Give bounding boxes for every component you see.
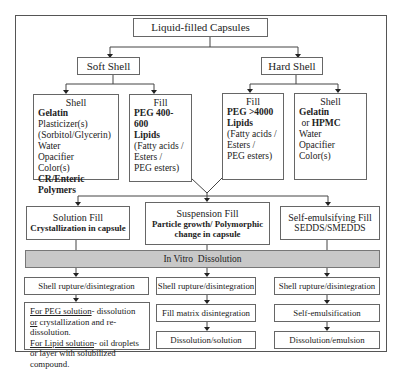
step-label: Fill matrix disintegration bbox=[162, 308, 250, 319]
hard-shell-fill-box: Fill PEG >4000 Lipids (Fatty acids / Est… bbox=[222, 93, 284, 180]
step-label: Shell rupture/disintegration bbox=[158, 281, 255, 292]
hpmc-text: HPMC bbox=[312, 118, 341, 128]
in-vitro-dissolution-bar: In Vitro Dissolution bbox=[25, 250, 380, 268]
peg-solution-label: For PEG solution bbox=[30, 306, 92, 316]
root-label: Liquid-filled Capsules bbox=[151, 22, 250, 33]
dissolution-label-right: Dissolution bbox=[198, 254, 242, 264]
root-box: Liquid-filled Capsules bbox=[133, 18, 268, 37]
suspension-step-dissolution: Dissolution/solution bbox=[156, 331, 256, 349]
self-emulsifying-step-emulsification: Self-emulsification bbox=[274, 304, 380, 322]
fill-item: Lipids bbox=[227, 118, 279, 129]
hard-shell-composition-title: Shell bbox=[299, 96, 362, 107]
step-label: Shell rupture/disintegration bbox=[38, 281, 135, 292]
soft-shell-box: Soft Shell bbox=[77, 57, 140, 75]
step-label: Shell rupture/disintegration bbox=[279, 281, 376, 292]
composition-item: Color(s) bbox=[299, 151, 362, 162]
self-emulsifying-fill-title: Self-emulsifying Fill bbox=[288, 212, 372, 223]
composition-item: Plasticizer(s) bbox=[38, 119, 114, 130]
fill-item: PEG esters) bbox=[227, 151, 279, 162]
composition-item: Opacifier bbox=[299, 140, 362, 151]
composition-item: Gelatin bbox=[38, 108, 114, 119]
self-emulsifying-fill-box: Self-emulsifying Fill SEDDS/SMEDDS bbox=[280, 206, 380, 240]
fill-item: Esters / bbox=[227, 140, 279, 151]
suspension-step-shell-rupture: Shell rupture/disintegration bbox=[156, 277, 256, 295]
solution-fill-title: Solution Fill bbox=[53, 212, 103, 223]
soft-shell-fill-title: Fill bbox=[134, 97, 187, 108]
fill-item: PEG esters) bbox=[134, 163, 187, 174]
hard-shell-fill-title: Fill bbox=[227, 96, 279, 107]
composition-item: Opacifier bbox=[38, 152, 114, 163]
solution-fill-subtitle: Crystallization in capsule bbox=[30, 223, 125, 234]
self-emulsifying-fill-subtitle: SEDDS/SMEDDS bbox=[294, 223, 365, 234]
dissolution-label-left: In Vitro bbox=[163, 254, 193, 264]
composition-item: (Sorbitol/Glycerin) bbox=[38, 130, 114, 141]
peg-solution-text-2: crystallization and re-dissolution. bbox=[30, 317, 116, 338]
suspension-fill-title: Suspension Fill bbox=[177, 208, 239, 219]
self-emulsifying-step-dissolution: Dissolution/emulsion bbox=[274, 331, 380, 349]
composition-item: Gelatin or HPMC bbox=[299, 107, 362, 129]
fill-item: (Fatty acids / bbox=[227, 129, 279, 140]
composition-item: Color(s) bbox=[38, 163, 114, 174]
step-label: Dissolution/solution bbox=[170, 335, 241, 346]
lipid-solution-label: For Lipid solution bbox=[30, 338, 94, 348]
soft-shell-fill-box: Fill PEG 400-600 Lipids (Fatty acids / E… bbox=[129, 94, 192, 182]
suspension-step-fill-matrix: Fill matrix disintegration bbox=[156, 304, 256, 322]
hard-shell-composition-box: Shell Gelatin or HPMC Water Opacifier Co… bbox=[294, 93, 367, 180]
soft-shell-label: Soft Shell bbox=[87, 61, 131, 72]
step-label: Self-emulsification bbox=[293, 308, 360, 319]
composition-item: CR/Enteric Polymers bbox=[38, 174, 114, 196]
composition-item: Water bbox=[38, 141, 114, 152]
composition-item: Water bbox=[299, 129, 362, 140]
hard-shell-label: Hard Shell bbox=[268, 61, 315, 72]
fill-item: PEG >4000 bbox=[227, 107, 279, 118]
solution-fill-box: Solution Fill Crystallization in capsule bbox=[26, 206, 130, 240]
gelatin-text: Gelatin bbox=[299, 107, 329, 117]
or-text: or bbox=[299, 118, 312, 128]
suspension-fill-subtitle: Particle growth/ Polymorphic change in c… bbox=[148, 219, 267, 240]
fill-item: Esters / bbox=[134, 152, 187, 163]
step-label: Dissolution/emulsion bbox=[289, 335, 364, 346]
peg-solution-text: - dissolution bbox=[92, 306, 138, 316]
fill-item: (Fatty acids / bbox=[134, 141, 187, 152]
fill-item: Lipids bbox=[134, 130, 187, 141]
soft-shell-composition-box: Shell Gelatin Plasticizer(s) (Sorbitol/G… bbox=[33, 94, 119, 180]
solution-description-box: For PEG solution- dissolution or crystal… bbox=[24, 302, 150, 350]
self-emulsifying-step-shell-rupture: Shell rupture/disintegration bbox=[274, 277, 380, 295]
hard-shell-box: Hard Shell bbox=[261, 57, 323, 75]
suspension-fill-box: Suspension Fill Particle growth/ Polymor… bbox=[145, 202, 270, 245]
solution-step-shell-rupture: Shell rupture/disintegration bbox=[24, 277, 149, 295]
soft-shell-composition-title: Shell bbox=[38, 97, 114, 108]
fill-item: PEG 400-600 bbox=[134, 108, 187, 130]
